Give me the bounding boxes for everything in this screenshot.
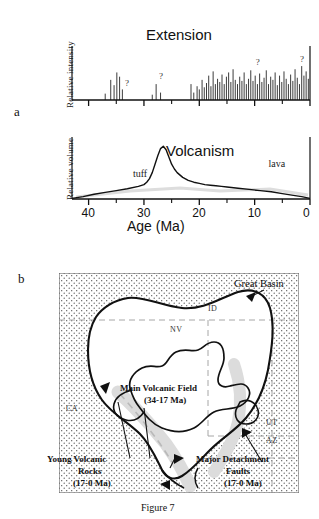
volcanism-chart-plot bbox=[70, 133, 315, 211]
extension-uncertainty-marker: ? bbox=[300, 55, 304, 64]
volcanism-tick-group bbox=[89, 199, 310, 205]
volcanism-x-tick-label: 40 bbox=[82, 207, 95, 219]
volcanism-x-tick-label: 0 bbox=[303, 207, 310, 219]
panel-b-letter: b bbox=[18, 272, 25, 285]
map-label-young-volcanic-line2: Rocks bbox=[78, 467, 102, 476]
map-label-detachment-line3: (17-0 Ma) bbox=[224, 479, 262, 488]
figure-7-root: a Relative intensity Extension ???? Rela… bbox=[0, 0, 319, 519]
volcanism-annotation-lava: lava bbox=[269, 159, 286, 169]
map-label-detachment-line1: Major Detachment bbox=[196, 455, 269, 464]
extension-chart-title: Extension bbox=[146, 27, 212, 42]
state-label-id: ID bbox=[208, 305, 217, 313]
map-label-main-volcanic-field-line1: Main Volcanic Field bbox=[120, 384, 197, 393]
extension-uncertainty-marker: ? bbox=[125, 79, 129, 88]
state-label-az: AZ bbox=[266, 437, 277, 445]
extension-chart-plot bbox=[70, 44, 315, 116]
state-label-ut: UT bbox=[266, 419, 277, 427]
volcanism-x-tick-label: 20 bbox=[192, 207, 205, 219]
map-label-young-volcanic-line1: Young Volcanic bbox=[47, 455, 106, 464]
panel-a-letter: a bbox=[14, 105, 20, 118]
extension-uncertainty-marker: ? bbox=[256, 58, 260, 67]
state-label-nv: NV bbox=[170, 326, 182, 334]
extension-spike-group bbox=[105, 66, 308, 100]
volcanism-x-tick-label: 10 bbox=[248, 207, 261, 219]
figure-caption: Figure 7 bbox=[141, 503, 175, 513]
map-label-main-volcanic-field-line2: (34-17 Ma) bbox=[144, 396, 186, 405]
map-label-detachment-line2: Faults bbox=[226, 467, 250, 476]
map-label-great-basin: Great Basin bbox=[234, 279, 284, 290]
volcanism-annotation-tuff: tuff bbox=[133, 169, 147, 179]
extension-tick-group bbox=[89, 100, 310, 106]
extension-uncertainty-marker: ? bbox=[159, 72, 163, 81]
state-label-ca: CA bbox=[66, 405, 78, 413]
age-axis-caption: Age (Ma) bbox=[127, 219, 185, 233]
map-label-young-volcanic-line3: (17-0 Ma) bbox=[73, 479, 111, 488]
